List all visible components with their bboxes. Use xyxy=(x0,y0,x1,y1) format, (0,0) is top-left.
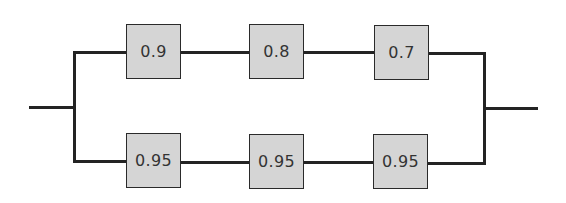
component-top-2: 0.8 xyxy=(249,24,304,79)
left-split-wire xyxy=(73,51,76,162)
component-top-1: 0.9 xyxy=(126,24,181,79)
component-bottom-1: 0.95 xyxy=(126,133,181,188)
bottom-path-exit-wire xyxy=(428,162,486,165)
input-wire xyxy=(29,106,75,109)
component-bottom-2: 0.95 xyxy=(249,134,304,189)
bottom-path-entry-wire xyxy=(73,160,127,163)
component-label: 0.95 xyxy=(382,152,419,171)
component-label: 0.7 xyxy=(388,43,414,62)
component-label: 0.95 xyxy=(135,151,172,170)
component-label: 0.8 xyxy=(263,42,289,61)
component-top-3: 0.7 xyxy=(374,25,429,80)
component-label: 0.95 xyxy=(258,152,295,171)
bottom-wire-1-2 xyxy=(181,161,249,164)
component-label: 0.9 xyxy=(140,42,166,61)
top-path-exit-wire xyxy=(429,52,486,55)
bottom-wire-2-3 xyxy=(304,161,374,164)
output-wire xyxy=(483,107,538,110)
component-bottom-3: 0.95 xyxy=(373,134,428,189)
top-wire-1-2 xyxy=(181,51,249,54)
top-wire-2-3 xyxy=(304,51,374,54)
top-path-entry-wire xyxy=(73,51,127,54)
reliability-block-diagram: 0.9 0.8 0.7 0.95 0.95 0.95 xyxy=(0,0,566,203)
